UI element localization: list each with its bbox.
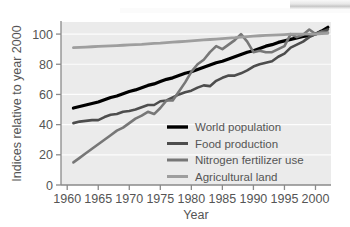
top-edge-artifact [290,0,350,9]
y-tick-label: 0 [46,179,53,193]
legend-label-2: Nitrogen fertilizer use [195,154,304,166]
x-tick-label: 1980 [177,192,205,206]
legend-label-3: Agricultural land [195,171,277,183]
x-tick-label: 1985 [208,192,236,206]
y-tick-label: 20 [39,148,53,162]
y-axis: 020406080100 [32,21,61,193]
y-axis-title: Indices relative to year 2000 [10,25,24,181]
x-tick-label: 1960 [53,192,81,206]
x-axis-title: Year [183,208,208,222]
y-tick-label: 60 [39,88,53,102]
x-tick-label: 2000 [302,192,330,206]
y-tick-label: 100 [32,28,53,42]
x-tick-label: 1975 [146,192,174,206]
y-tick-label: 80 [39,58,53,72]
y-tick-label: 40 [39,118,53,132]
chart-figure: 020406080100 196019651970197519801985199… [0,0,350,227]
x-tick-label: 1965 [84,192,112,206]
x-axis: 196019651970197519801985199019952000 [53,185,331,206]
x-tick-label: 1990 [240,192,268,206]
x-tick-label: 1970 [115,192,143,206]
line-chart: 020406080100 196019651970197519801985199… [0,0,350,227]
x-tick-label: 1995 [271,192,299,206]
legend-label-1: Food production [195,138,278,150]
legend-label-0: World population [195,121,281,133]
